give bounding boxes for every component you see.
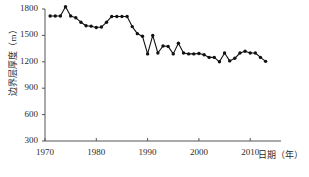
data-point-marker	[105, 21, 108, 24]
data-point-marker	[202, 53, 205, 56]
data-point-marker	[161, 44, 164, 47]
x-tick-label: 1980	[81, 147, 111, 157]
figure-container: 边界层厚度（m） 日期（年） 300600900120015001800 197…	[0, 0, 309, 177]
data-point-marker	[197, 52, 200, 55]
data-point-marker	[79, 21, 82, 24]
data-point-marker	[69, 14, 72, 17]
data-point-marker	[254, 51, 257, 54]
data-point-marker	[259, 56, 262, 59]
data-point-marker	[74, 16, 77, 19]
data-point-marker	[120, 15, 123, 18]
data-point-marker	[228, 59, 231, 62]
data-point-marker	[54, 14, 57, 17]
data-point-marker	[218, 60, 221, 63]
data-point-marker	[110, 15, 113, 18]
x-tick-label: 1990	[133, 147, 163, 157]
y-tick-label: 1800	[14, 3, 38, 13]
y-tick-label: 1200	[14, 56, 38, 66]
data-point-marker	[141, 35, 144, 38]
axis-lines	[45, 9, 281, 141]
data-point-marker	[89, 24, 92, 27]
x-tick-label: 2000	[184, 147, 214, 157]
data-point-marker	[233, 57, 236, 60]
y-tick-label: 300	[14, 135, 38, 145]
data-point-marker	[207, 56, 210, 59]
data-point-marker	[48, 14, 51, 17]
data-point-marker	[166, 45, 169, 48]
data-point-marker	[95, 26, 98, 29]
data-series-markers	[48, 5, 267, 63]
data-point-marker	[59, 14, 62, 17]
data-point-marker	[187, 52, 190, 55]
data-point-marker	[243, 50, 246, 53]
data-point-marker	[84, 24, 87, 27]
data-point-marker	[115, 15, 118, 18]
data-point-marker	[146, 52, 149, 55]
data-point-marker	[177, 42, 180, 45]
data-point-marker	[125, 15, 128, 18]
y-tick-label: 1500	[14, 29, 38, 39]
data-point-marker	[223, 51, 226, 54]
x-tick-label: 2010	[235, 147, 265, 157]
y-tick-label: 600	[14, 109, 38, 119]
data-point-marker	[136, 32, 139, 35]
data-point-marker	[156, 51, 159, 54]
data-point-marker	[182, 51, 185, 54]
data-point-marker	[249, 51, 252, 54]
data-point-marker	[213, 56, 216, 59]
data-point-marker	[264, 60, 267, 63]
data-point-marker	[192, 52, 195, 55]
x-tick-label: 1970	[30, 147, 60, 157]
data-point-marker	[64, 5, 67, 8]
data-point-marker	[100, 25, 103, 28]
data-point-marker	[151, 34, 154, 37]
data-point-marker	[172, 52, 175, 55]
data-point-marker	[238, 51, 241, 54]
y-tick-label: 900	[14, 82, 38, 92]
data-point-marker	[131, 25, 134, 28]
